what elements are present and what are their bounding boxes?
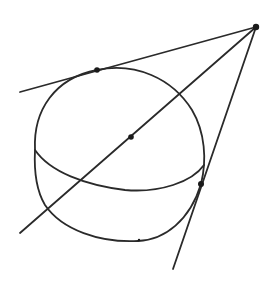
sphere-tangent-diagram xyxy=(0,0,279,287)
upper-tangent-line xyxy=(20,27,256,92)
apex-point xyxy=(253,24,259,30)
bottom-tick-mark xyxy=(138,239,140,241)
equator-ellipse xyxy=(35,150,204,190)
tangent-point-top xyxy=(94,67,100,73)
center-point xyxy=(128,134,134,140)
tangent-point-right xyxy=(198,181,204,187)
